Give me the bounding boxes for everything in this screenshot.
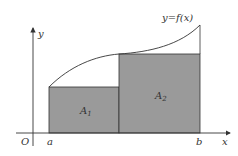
left-bound-label: a xyxy=(47,136,53,147)
origin-label: O xyxy=(21,136,29,147)
right-bound-label: b xyxy=(196,136,202,147)
function-label: y=f(x) xyxy=(161,12,193,23)
y-axis-label: y xyxy=(37,28,44,39)
riemann-sum-diagram: y=f(x) y x O a b A1 A2 xyxy=(0,0,238,156)
x-axis-label: x xyxy=(222,136,228,147)
